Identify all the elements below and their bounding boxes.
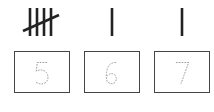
tally-mark-group-5 <box>20 6 64 38</box>
dotted-digit-6 <box>85 52 139 92</box>
dotted-digit-5 <box>15 52 69 92</box>
answer-box-2[interactable]: 6 <box>84 51 140 93</box>
tally-mark-group-1a <box>106 6 118 38</box>
tally-mark-group-1b <box>176 6 188 38</box>
answer-box-3[interactable]: 7 <box>154 51 210 93</box>
answer-box-1[interactable]: 5 <box>14 51 70 93</box>
dotted-digit-7 <box>155 52 209 92</box>
